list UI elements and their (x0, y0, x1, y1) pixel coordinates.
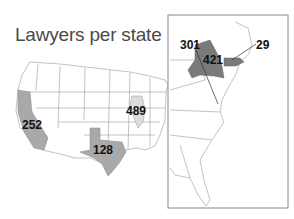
label-texas: 128 (93, 143, 113, 157)
label-massachusetts: 29 (256, 38, 269, 52)
label-california: 252 (22, 118, 42, 132)
label-new-york: 421 (203, 53, 223, 67)
label-illinois: 489 (126, 104, 146, 118)
label-dc-area: 301 (180, 38, 200, 52)
us-map (0, 0, 294, 219)
